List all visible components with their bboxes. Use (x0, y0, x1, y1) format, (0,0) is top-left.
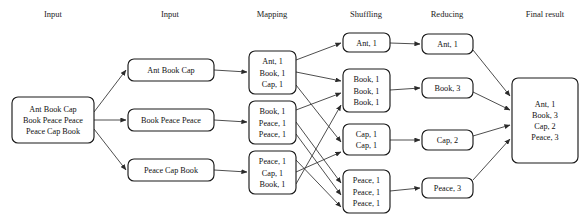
edge-map-2-to-shuf-1 (296, 105, 341, 184)
column-header-1: Input (161, 9, 180, 19)
column-headers: InputInputMappingShufflingReducingFinal … (44, 9, 565, 19)
node-shuf-3[interactable]: Peace, 1Peace, 1Peace, 1 (343, 170, 390, 213)
node-line: Book, 1 (354, 98, 380, 107)
column-header-5: Final result (526, 9, 565, 19)
node-shuf-0[interactable]: Ant, 1 (343, 33, 390, 52)
mapreduce-diagram: Ant Book CapBook Peace PeacePeace Cap Bo… (0, 0, 587, 221)
node-line: Peace, 1 (259, 119, 286, 128)
node-outline (343, 124, 390, 155)
node-line: Peace, 1 (259, 130, 286, 139)
node-map-2[interactable]: Peace, 1Cap, 1Book, 1 (249, 151, 296, 194)
column-header-0: Input (44, 9, 63, 19)
node-final-0[interactable]: Ant, 1Book, 3Cap, 2Peace, 3 (512, 78, 578, 163)
edge-shuf-1-to-red-1 (390, 88, 420, 90)
edge-map-2-to-shuf-3 (296, 160, 341, 207)
column-header-3: Shuffling (350, 9, 383, 19)
node-line: Peace, 3 (531, 133, 558, 142)
node-red-1[interactable]: Book, 3 (422, 78, 473, 98)
node-line: Book Peace Peace (141, 116, 201, 125)
node-line: Peace Cap Book (144, 166, 199, 175)
edge-red-0-to-final-0 (473, 50, 510, 96)
node-line: Peace Cap Book (26, 127, 81, 136)
node-split-1[interactable]: Book Peace Peace (128, 109, 214, 131)
edge-split-2-to-map-2 (214, 170, 247, 172)
node-shuf-1[interactable]: Book, 1Book, 1Book, 1 (343, 69, 390, 112)
node-line: Book Peace Peace (23, 116, 83, 125)
node-line: Ant, 1 (437, 40, 457, 49)
edge-split-0-to-map-0 (214, 70, 247, 72)
edge-map-1-to-shuf-1 (296, 93, 341, 110)
diagram-canvas: Ant Book CapBook Peace PeacePeace Cap Bo… (0, 0, 587, 221)
node-map-0[interactable]: Ant, 1Book, 1Cap, 1 (249, 51, 296, 94)
node-line: Book, 3 (435, 84, 461, 93)
node-red-0[interactable]: Ant, 1 (422, 34, 473, 54)
edge-red-2-to-final-0 (473, 125, 510, 136)
edge-red-1-to-final-0 (473, 92, 510, 110)
node-line: Cap, 1 (356, 130, 377, 139)
edge-map-2-to-shuf-2 (296, 152, 341, 172)
node-map-1[interactable]: Book, 1Peace, 1Peace, 1 (249, 101, 296, 144)
node-line: Peace, 1 (259, 157, 286, 166)
node-line: Book, 1 (260, 107, 286, 116)
node-line: Book, 1 (354, 87, 380, 96)
node-outline (512, 78, 578, 163)
edge-split-1-to-map-1 (214, 120, 247, 122)
node-line: Peace, 1 (353, 176, 380, 185)
node-line: Cap, 2 (437, 136, 458, 145)
edge-map-0-to-shuf-1 (296, 72, 341, 81)
node-line: Cap, 1 (262, 169, 283, 178)
node-line: Peace, 1 (353, 188, 380, 197)
node-red-2[interactable]: Cap, 2 (422, 130, 473, 150)
edge-input-0-to-split-2 (94, 129, 126, 170)
node-line: Book, 1 (260, 180, 286, 189)
edge-map-0-to-shuf-2 (296, 85, 341, 142)
node-line: Book, 1 (260, 69, 286, 78)
column-header-4: Reducing (431, 9, 464, 19)
node-line: Ant, 1 (262, 57, 282, 66)
node-line: Ant, 1 (356, 39, 376, 48)
node-split-0[interactable]: Ant Book Cap (128, 59, 214, 81)
edge-map-1-to-shuf-3 (296, 134, 341, 195)
node-line: Ant, 1 (535, 100, 555, 109)
node-line: Peace, 3 (434, 184, 461, 193)
edge-map-1-to-shuf-3 (296, 122, 341, 183)
node-line: Cap, 2 (534, 122, 555, 131)
node-red-3[interactable]: Peace, 3 (422, 178, 473, 198)
edge-shuf-0-to-red-0 (390, 43, 420, 44)
node-input-0[interactable]: Ant Book CapBook Peace PeacePeace Cap Bo… (12, 97, 94, 143)
node-split-2[interactable]: Peace Cap Book (128, 159, 214, 181)
node-line: Book, 1 (354, 75, 380, 84)
node-line: Book, 3 (532, 111, 558, 120)
node-line: Ant Book Cap (147, 66, 194, 75)
edge-input-0-to-split-0 (94, 70, 126, 112)
node-line: Cap, 1 (262, 80, 283, 89)
edge-map-0-to-shuf-0 (296, 43, 341, 60)
edge-shuf-3-to-red-3 (390, 188, 420, 191)
edge-red-3-to-final-0 (473, 139, 510, 180)
node-line: Cap, 1 (356, 141, 377, 150)
node-line: Ant Book Cap (29, 105, 76, 114)
column-header-2: Mapping (257, 9, 288, 19)
box-layer: Ant Book CapBook Peace PeacePeace Cap Bo… (12, 33, 578, 213)
node-line: Peace, 1 (353, 199, 380, 208)
node-shuf-2[interactable]: Cap, 1Cap, 1 (343, 124, 390, 155)
